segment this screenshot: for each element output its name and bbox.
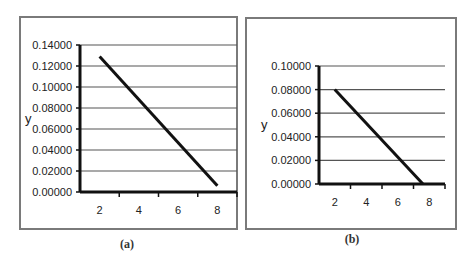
x-tick-label: 4 <box>136 204 142 216</box>
x-tick-label: 2 <box>97 204 103 216</box>
y-tick-label: 0.00000 <box>32 186 72 198</box>
y-tick-label: 0.08000 <box>271 84 311 96</box>
figure-panels: 0.000000.020000.040000.060000.080000.100… <box>0 0 476 265</box>
y-tick-label: 0.14000 <box>32 39 72 51</box>
y-tick-label: 0.12000 <box>32 60 72 72</box>
x-tick-label: 6 <box>395 196 401 208</box>
y-tick-label: 0.06000 <box>271 107 311 119</box>
x-tick-label: 4 <box>363 196 369 208</box>
y-tick-label: 0.10000 <box>32 81 72 93</box>
y-tick-label: 0.06000 <box>32 123 72 135</box>
chart-panel-b: 0.000000.020000.040000.060000.080000.100… <box>246 18 456 246</box>
x-tick-label: 8 <box>426 196 432 208</box>
panel-caption: (a) <box>120 237 134 251</box>
panel-frame <box>246 18 456 229</box>
panel-caption: (b) <box>345 232 360 246</box>
y-tick-label: 0.04000 <box>32 144 72 156</box>
x-tick-label: 6 <box>175 204 181 216</box>
y-tick-label: 0.02000 <box>271 154 311 166</box>
chart-panel-a: 0.000000.020000.040000.060000.080000.100… <box>20 17 237 251</box>
x-tick-label: 8 <box>214 204 220 216</box>
x-tick-label: 2 <box>332 196 338 208</box>
y-tick-label: 0.10000 <box>271 60 311 72</box>
y-axis-label: y <box>261 117 268 132</box>
y-tick-label: 0.04000 <box>271 131 311 143</box>
y-tick-label: 0.02000 <box>32 165 72 177</box>
y-tick-label: 0.00000 <box>271 178 311 190</box>
y-axis-label: y <box>25 111 32 126</box>
y-tick-label: 0.08000 <box>32 102 72 114</box>
